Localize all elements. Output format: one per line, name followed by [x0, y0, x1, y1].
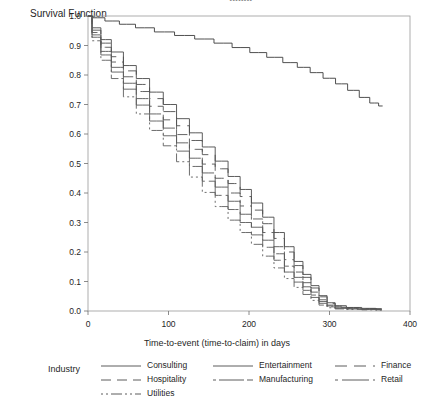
legend-item: Hospitality — [100, 372, 187, 386]
legend-item: Retail — [334, 372, 411, 386]
survival-function-chart: •••••••• Survival Function 0.00.10.20.30… — [0, 0, 434, 411]
y-tick-label: 0.0 — [69, 306, 81, 316]
legend-item-label: Hospitality — [147, 374, 186, 384]
dash-long-line-swatch — [212, 375, 254, 384]
short-long-dash-line-swatch — [334, 375, 376, 384]
series-line-utilities — [88, 16, 382, 310]
y-tick-label: 0.6 — [69, 129, 81, 139]
plot-frame — [88, 16, 410, 311]
x-tick-label: 0 — [86, 319, 91, 329]
series-line-entertainment — [88, 16, 383, 106]
legend: Industry ConsultingHospitalityUtilities … — [0, 358, 434, 408]
y-tick-label: 0.7 — [69, 100, 81, 110]
legend-item-label: Entertainment — [259, 360, 312, 370]
dash-dot-line-swatch — [100, 389, 142, 398]
x-tick-label: 400 — [403, 319, 417, 329]
series-line-finance — [88, 16, 382, 309]
legend-item: Entertainment — [212, 358, 313, 372]
series-line-hospitality — [88, 16, 382, 309]
legend-item-label: Manufacturing — [259, 374, 313, 384]
legend-item: Consulting — [100, 358, 187, 372]
plot-area: 0.00.10.20.30.40.50.60.70.80.91.00100200… — [0, 0, 434, 340]
y-tick-label: 0.5 — [69, 159, 81, 169]
y-tick-label: 0.1 — [69, 277, 81, 287]
y-tick-label: 0.4 — [69, 188, 81, 198]
x-axis-title: Time-to-event (time-to-claim) in days — [0, 338, 434, 348]
legend-item: Utilities — [100, 386, 187, 400]
y-tick-label: 1.0 — [69, 11, 81, 21]
series-line-retail — [88, 16, 382, 310]
long-dash-line-swatch — [100, 375, 142, 384]
y-tick-label: 0.3 — [69, 218, 81, 228]
legend-item: Finance — [334, 358, 411, 372]
legend-item-label: Finance — [381, 360, 411, 370]
legend-item: Manufacturing — [212, 372, 313, 386]
y-tick-label: 0.2 — [69, 247, 81, 257]
x-tick-label: 100 — [161, 319, 175, 329]
x-tick-label: 200 — [242, 319, 256, 329]
legend-title: Industry — [48, 364, 80, 374]
legend-item-label: Retail — [381, 374, 403, 384]
series-line-consulting — [88, 16, 382, 309]
legend-column-1: ConsultingHospitalityUtilities — [100, 358, 187, 400]
legend-item-label: Consulting — [147, 360, 187, 370]
x-tick-label: 300 — [322, 319, 336, 329]
y-tick-label: 0.8 — [69, 70, 81, 80]
legend-column-3: FinanceRetail — [334, 358, 411, 386]
legend-column-2: EntertainmentManufacturing — [212, 358, 313, 386]
solid-line-swatch — [100, 361, 142, 370]
solid-line-swatch — [212, 361, 254, 370]
y-tick-label: 0.9 — [69, 41, 81, 51]
series-line-manufacturing — [88, 16, 382, 310]
medium-dash-line-swatch — [334, 361, 376, 370]
legend-item-label: Utilities — [147, 388, 174, 398]
